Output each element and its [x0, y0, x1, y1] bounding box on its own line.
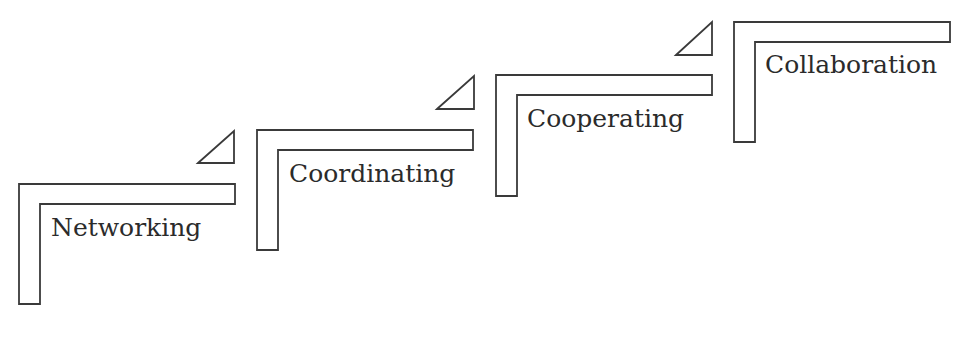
step-coordinating: Coordinating [257, 76, 474, 250]
step-networking: Networking [19, 131, 235, 304]
step-bracket-shape [734, 22, 950, 142]
step-label-cooperating: Cooperating [527, 104, 684, 133]
step-label-collaboration: Collaboration [765, 50, 937, 79]
step-label-networking: Networking [51, 213, 201, 242]
step-bracket-shape [19, 184, 235, 304]
step-bracket-shape [257, 130, 473, 250]
step-triangle-icon [676, 22, 712, 55]
staircase-diagram: Networking Coordinating Cooperating Coll… [0, 0, 967, 343]
step-label-coordinating: Coordinating [289, 159, 455, 188]
step-triangle-icon [437, 76, 474, 109]
step-triangle-icon [198, 131, 234, 163]
step-collaboration: Collaboration [734, 22, 950, 142]
step-cooperating: Cooperating [496, 22, 712, 196]
step-bracket-shape [496, 75, 712, 196]
